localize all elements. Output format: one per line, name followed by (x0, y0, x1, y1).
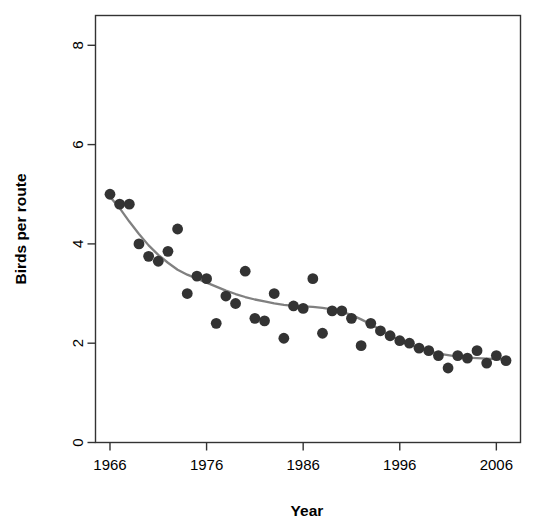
data-point (375, 325, 386, 336)
data-point (491, 350, 502, 361)
data-point (163, 246, 174, 257)
data-point (105, 189, 116, 200)
data-point (124, 199, 135, 210)
scatter-plot: 02468 19661976198619962006 Year Birds pe… (0, 0, 540, 527)
data-point (134, 239, 145, 250)
data-point (501, 355, 512, 366)
data-point (307, 273, 318, 284)
x-tick-label-1986: 1986 (286, 456, 319, 473)
data-point (153, 256, 164, 267)
chart-container: 02468 19661976198619962006 Year Birds pe… (0, 0, 540, 527)
data-point (269, 288, 280, 299)
data-point (346, 313, 357, 324)
data-point (259, 315, 270, 326)
data-point (143, 251, 154, 262)
y-tick-label-4: 4 (69, 240, 86, 248)
chart-background (0, 0, 540, 527)
x-tick-label-1966: 1966 (93, 456, 126, 473)
x-tick-label-1996: 1996 (383, 456, 416, 473)
data-point (298, 303, 309, 314)
y-axis-title: Birds per route (12, 173, 29, 284)
data-point (182, 288, 193, 299)
y-tick-label-0: 0 (69, 438, 86, 446)
data-point (414, 343, 425, 354)
x-tick-label-2006: 2006 (480, 456, 513, 473)
data-point (404, 338, 415, 349)
data-point (481, 358, 492, 369)
data-point (443, 363, 454, 374)
data-point (288, 301, 299, 312)
data-point (423, 345, 434, 356)
y-tick-label-6: 6 (69, 140, 86, 148)
data-point (385, 330, 396, 341)
data-point (462, 353, 473, 364)
data-point (356, 340, 367, 351)
data-point (336, 306, 347, 317)
y-tick-label-8: 8 (69, 41, 86, 49)
data-point (278, 333, 289, 344)
data-point (452, 350, 463, 361)
data-point (211, 318, 222, 329)
data-point (249, 313, 260, 324)
data-point (472, 345, 483, 356)
data-point (201, 273, 212, 284)
data-point (221, 291, 232, 302)
data-point (114, 199, 125, 210)
data-point (172, 224, 183, 235)
x-tick-label-1976: 1976 (190, 456, 223, 473)
y-tick-label-2: 2 (69, 339, 86, 347)
data-point (327, 306, 338, 317)
data-point (365, 318, 376, 329)
data-point (394, 335, 405, 346)
x-axis-title: Year (291, 502, 324, 519)
data-point (317, 328, 328, 339)
data-point (192, 271, 203, 282)
data-point (433, 350, 444, 361)
data-point (230, 298, 241, 309)
data-point (240, 266, 251, 277)
